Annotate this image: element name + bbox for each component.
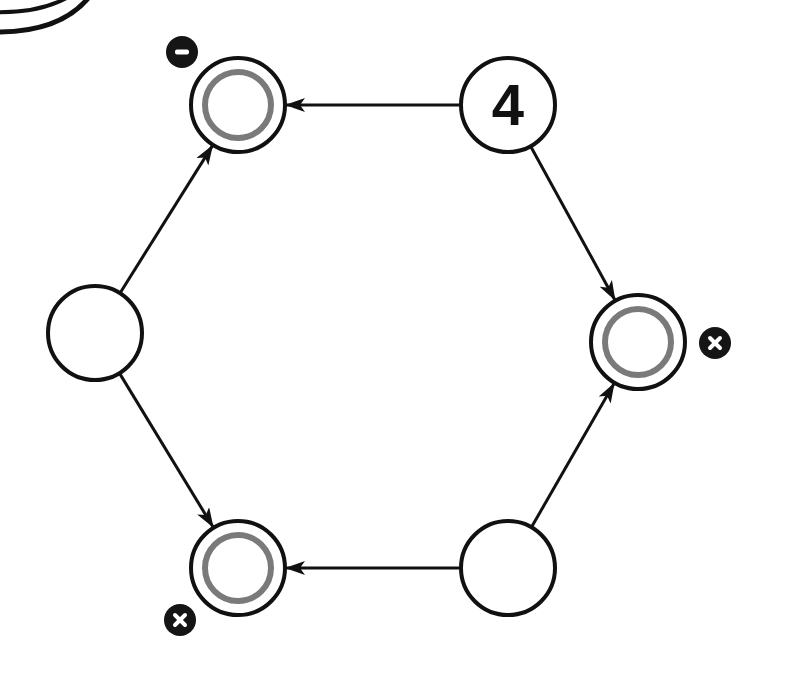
edge-l-to-bl bbox=[119, 373, 213, 527]
state-node-br[interactable] bbox=[461, 521, 555, 615]
state-node-l[interactable] bbox=[48, 286, 142, 380]
state-node-tl[interactable] bbox=[191, 58, 285, 152]
edges bbox=[119, 105, 614, 568]
x-badge-icon bbox=[699, 327, 731, 359]
edge-n4-to-r bbox=[531, 146, 615, 300]
decorative-arc bbox=[0, 0, 90, 32]
state-node-bl[interactable] bbox=[191, 521, 285, 615]
state-diagram: 4 bbox=[0, 0, 785, 687]
edge-br-to-r bbox=[531, 384, 614, 528]
node-label: 4 bbox=[492, 72, 524, 137]
state-node-n4[interactable]: 4 bbox=[461, 58, 555, 152]
minus-badge-icon bbox=[166, 36, 198, 68]
edge-l-to-tl bbox=[120, 146, 213, 294]
state-node-r[interactable] bbox=[591, 295, 685, 389]
nodes: 4 bbox=[48, 58, 685, 615]
x-badge-icon bbox=[164, 604, 196, 636]
